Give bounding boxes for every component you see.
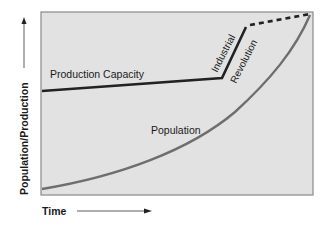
plot-area	[41, 12, 313, 195]
production-capacity-label: Production Capacity	[50, 68, 145, 80]
x-axis-arrow-head-icon	[144, 209, 152, 214]
population-label: Population	[151, 124, 201, 136]
diagram-canvas: Production Capacity Industrial Revolutio…	[0, 0, 328, 229]
x-axis-label: Time	[42, 205, 66, 217]
y-axis-label: Population/Production	[18, 82, 30, 195]
y-axis-arrow-head-icon	[22, 17, 27, 24]
